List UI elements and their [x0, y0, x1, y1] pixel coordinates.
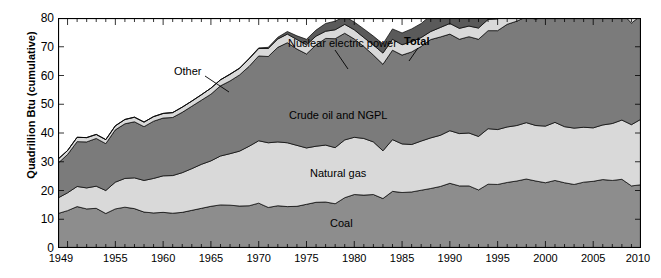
y-tick-label: 30: [28, 156, 54, 168]
x-axis-tick-labels: 1949195519601965197019751980198519901995…: [0, 253, 661, 275]
y-tick-label: 70: [28, 41, 54, 53]
x-tick-label: 1970: [239, 253, 279, 264]
y-tick-label: 10: [28, 213, 54, 225]
series-label-nuclear: Nuclear electric power: [288, 38, 397, 49]
x-tick-label: 2010: [618, 253, 658, 264]
x-tick-label: 1990: [430, 253, 470, 264]
x-tick-label: 1960: [143, 253, 183, 264]
plot-area: [58, 18, 641, 248]
x-tick-label: 2000: [525, 253, 565, 264]
series-label-other: Other: [174, 66, 202, 77]
series-label-total: Total: [404, 36, 429, 47]
x-tick-label: 1985: [382, 253, 422, 264]
series-label-natural-gas: Natural gas: [310, 168, 366, 179]
y-tick-label: 80: [28, 12, 54, 24]
y-tick-label: 20: [28, 185, 54, 197]
y-tick-label: 50: [28, 98, 54, 110]
chart-figure: Quadrillion Btu (cumulative) 01020304050…: [0, 0, 661, 278]
x-tick-label: 1975: [286, 253, 326, 264]
x-tick-label: 1949: [41, 253, 81, 264]
y-tick-label: 60: [28, 70, 54, 82]
series-label-crude-oil-and-ngpl: Crude oil and NGPL: [289, 110, 387, 121]
x-tick-label: 1980: [334, 253, 374, 264]
series-label-coal: Coal: [330, 218, 353, 229]
stacked-area-svg: [58, 18, 641, 248]
x-tick-label: 1965: [191, 253, 231, 264]
y-tick-label: 40: [28, 127, 54, 139]
x-tick-label: 1955: [95, 253, 135, 264]
y-axis-tick-labels: 01020304050607080: [26, 0, 54, 278]
x-tick-label: 2005: [573, 253, 613, 264]
x-tick-label: 1995: [478, 253, 518, 264]
